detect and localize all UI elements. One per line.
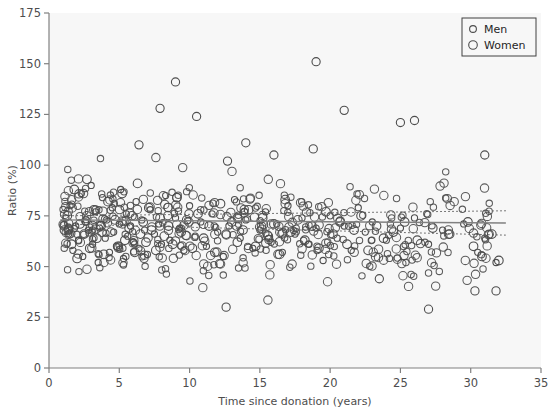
x-tick-label-15: 15	[253, 376, 268, 390]
y-tick-label-50: 50	[26, 260, 41, 274]
y-tick-label-0: 0	[34, 361, 41, 375]
legend-label-women: Women	[484, 39, 525, 52]
x-tick-label-10: 10	[182, 376, 197, 390]
y-axis-title: Ratio (%)	[6, 165, 19, 216]
x-tick-label-30: 30	[463, 376, 478, 390]
x-tick-label-0: 0	[45, 376, 52, 390]
x-axis-title: Time since donation (years)	[217, 395, 371, 408]
legend: MenWomen	[462, 18, 536, 56]
x-tick-label-35: 35	[534, 376, 549, 390]
y-tick-label-175: 175	[19, 6, 41, 20]
y-tick-label-75: 75	[26, 209, 41, 223]
y-tick-label-25: 25	[26, 310, 41, 324]
x-tick-label-25: 25	[393, 376, 408, 390]
y-tick-label-125: 125	[19, 107, 41, 121]
scatter-chart-figure: 025507510012515017505101520253035Time si…	[0, 0, 556, 410]
y-tick-label-100: 100	[19, 158, 41, 172]
plot-panel	[49, 13, 541, 368]
plot-svg: 025507510012515017505101520253035Time si…	[0, 0, 556, 410]
x-tick-label-20: 20	[323, 376, 338, 390]
legend-label-men: Men	[484, 23, 507, 36]
x-tick-label-5: 5	[116, 376, 123, 390]
y-tick-label-150: 150	[19, 57, 41, 71]
